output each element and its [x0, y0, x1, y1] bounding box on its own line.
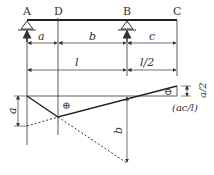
dim-l: l [75, 56, 79, 69]
dim-b: b [89, 30, 96, 43]
label-b: B [123, 5, 131, 18]
label-a: A [22, 5, 32, 18]
dim-c: c [149, 30, 155, 43]
influence-line-diagram: A D B C a b c l l/2 a b a/2 (ac/l) ⊕ ⊖ [0, 0, 214, 175]
positive-sign: ⊕ [62, 100, 70, 111]
ordinate-a: a [6, 107, 19, 114]
label-d: D [54, 5, 63, 18]
negative-sign: ⊖ [164, 86, 172, 97]
label-c: C [173, 5, 181, 18]
ordinate-b: b [112, 127, 125, 134]
support-b-icon [118, 21, 136, 42]
ordinate-a-half: a/2 [197, 82, 208, 98]
influence-line [27, 86, 177, 117]
end-value: (ac/l) [172, 102, 198, 113]
dim-l-half: l/2 [140, 56, 154, 69]
dim-a: a [38, 30, 45, 43]
